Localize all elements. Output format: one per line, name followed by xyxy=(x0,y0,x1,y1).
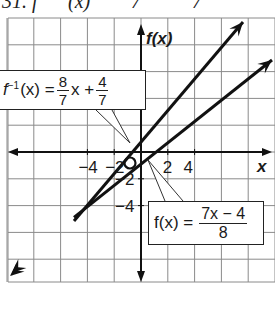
inverse-function-callout: f −1 (x) = 8 7 x + 4 7 xyxy=(0,70,146,110)
tick-label-x-2: 2 xyxy=(163,158,172,177)
tick-label-y-neg4: −4 xyxy=(115,197,134,216)
function-callout: f(x) = 7x − 4 8 xyxy=(148,201,264,245)
origin-label xyxy=(125,158,136,169)
axis-labels: −4−224x4−2−4f(x) xyxy=(78,29,268,216)
function-numerator: 7x − 4 xyxy=(199,206,247,224)
function-lhs: f(x) = xyxy=(154,213,193,233)
x-axis-left-arrow-icon xyxy=(8,148,18,156)
y-axis-up-arrow-icon xyxy=(137,24,145,35)
tick-label-x-neg4: −4 xyxy=(78,158,97,177)
inverse-superscript: −1 xyxy=(8,80,19,91)
tick-label-x-4: 4 xyxy=(184,158,193,177)
inverse-frac2-den: 7 xyxy=(98,91,106,107)
inverse-var: x + xyxy=(71,80,94,100)
inverse-arg: (x) = xyxy=(20,80,54,100)
inverse-frac2-num: 4 xyxy=(96,74,108,91)
y-axis-down-arrow-icon xyxy=(137,271,145,282)
function-denominator: 8 xyxy=(219,224,228,241)
inverse-frac1-num: 8 xyxy=(57,74,69,91)
tick-label-y-neg2: −2 xyxy=(115,170,134,189)
callout-leaders xyxy=(96,110,183,201)
inverse-function-line xyxy=(74,22,243,221)
y-axis-label: f(x) xyxy=(146,29,173,48)
coordinate-plane: −4−224x4−2−4f(x) xyxy=(0,0,275,314)
inverse-frac1-den: 7 xyxy=(59,91,67,107)
x-axis-label: x xyxy=(256,157,268,176)
inverse-callout-pointer xyxy=(96,110,130,143)
x-axis-right-arrow-icon xyxy=(262,148,272,156)
